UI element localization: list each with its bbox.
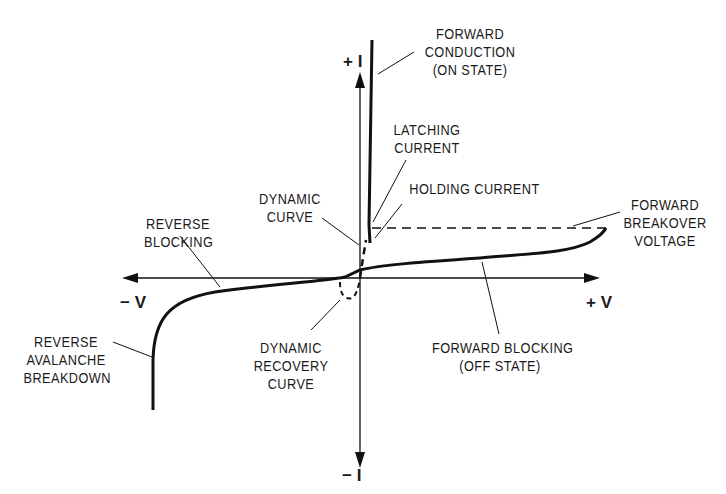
dynamic-recovery-label: DYNAMIC RECOVERY CURVE: [253, 339, 330, 393]
arrow-left-icon: [122, 273, 138, 283]
reverse-avalanche-label: REVERSE AVALANCHE BREAKDOWN: [24, 333, 109, 387]
plus-v-label: + V: [586, 293, 612, 313]
holding-current-label: HOLDING CURRENT: [409, 180, 537, 198]
vi-curve: [153, 228, 606, 410]
forward-conduction-label: FORWARD CONDUCTION (ON STATE): [419, 25, 521, 79]
on-state-curve: [369, 40, 372, 243]
forward-breakover-label: FORWARD BREAKOVER VOLTAGE: [623, 196, 708, 250]
thyristor-vi-diagram: + I − I + V − V FORWARD CONDUCTION (ON S…: [0, 0, 726, 494]
dynamic-curve-label: DYNAMIC CURVE: [256, 190, 324, 226]
arrow-right-icon: [584, 273, 600, 283]
reverse-blocking-label: REVERSE BLOCKING: [144, 215, 212, 251]
dynamic-recovery-curve: [340, 280, 360, 298]
latching-current-label: LATCHING CURRENT: [389, 121, 466, 157]
dynamic-curve: [360, 240, 366, 278]
arrow-up-icon: [355, 72, 365, 88]
forward-blocking-label: FORWARD BLOCKING (OFF STATE): [432, 339, 568, 375]
plus-i-label: + I: [343, 52, 362, 72]
minus-i-label: − I: [342, 466, 361, 486]
minus-v-label: − V: [120, 293, 146, 313]
diagram-graphics: [0, 0, 726, 494]
